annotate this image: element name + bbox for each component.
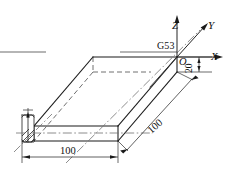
x-axis-label: X [211,51,218,62]
depth-arrow-near [120,149,128,153]
diagram-canvas [0,0,234,171]
corner-block-feature [22,108,34,142]
g53-datum-label: G53 [157,41,175,51]
depth-arrow-far [191,75,199,80]
z-axis-label: Z [172,20,178,31]
y-axis-label: Y [208,20,214,31]
y-axis-line [177,26,205,57]
thickness-dimension-label: 20 [185,64,195,74]
thickness-arrow-top [197,58,200,63]
depth-ext-far [177,72,193,80]
engineering-diagram: Z Y X O G53 100 100 20 [0,0,234,171]
thickness-arrow-bottom [197,66,200,71]
width-arrow-right [110,155,117,158]
width-arrow-left [23,155,30,158]
width-dimension-label: 100 [60,146,76,157]
plate-front-face [34,126,118,141]
